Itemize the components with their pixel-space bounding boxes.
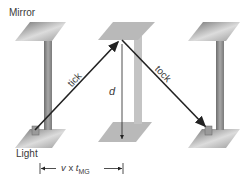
mirror-label: Mirror	[9, 8, 35, 18]
light-clock-diagram: Mirror Light tick tock d v x tMG	[0, 0, 240, 182]
right-light-source	[205, 126, 212, 135]
distance-label: d	[109, 86, 115, 97]
times-symbol: x	[66, 162, 76, 173]
base-formula: v x tMG	[61, 163, 90, 173]
time-subscript: MG	[78, 168, 89, 175]
light-label: Light	[16, 149, 38, 159]
left-bottom-plate	[15, 129, 66, 148]
left-clock	[15, 22, 66, 148]
right-mirror-plate	[188, 22, 240, 41]
right-clock	[188, 22, 240, 148]
right-bottom-plate	[188, 129, 240, 148]
right-post	[216, 38, 224, 130]
middle-clock	[98, 22, 155, 142]
left-mirror-plate	[15, 22, 66, 41]
middle-mirror-plate	[98, 22, 155, 40]
middle-bottom-plate	[98, 122, 152, 142]
middle-post	[134, 36, 142, 124]
